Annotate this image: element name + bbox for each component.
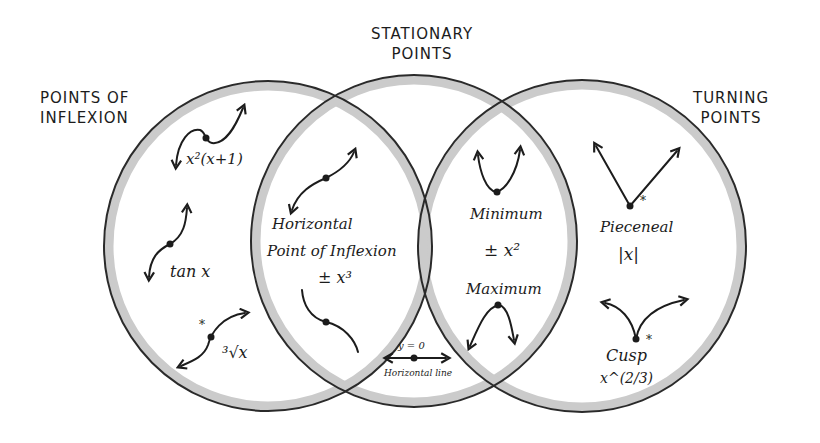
v-shape-sketch-icon [596, 146, 677, 206]
cusp-marker: * [646, 333, 652, 347]
inflection-point-dot [323, 175, 330, 182]
cube-root-marker: * [199, 318, 205, 332]
cusp-point-dot [633, 336, 640, 343]
increasing-cubic-sketch-icon [292, 152, 354, 210]
quadratic-formula: ± x² [484, 240, 520, 260]
tan-label: tan x [170, 262, 210, 281]
turning-set-title: TURNING POINTS [676, 88, 786, 128]
turning-circle-rim [423, 85, 741, 407]
inflection-point-dot [167, 241, 174, 248]
cusp-label: Cusp [606, 346, 647, 365]
inflexion-title-line1: POINTS OF [40, 88, 129, 108]
inflection-point-dot [203, 135, 210, 142]
horizontal-line-caption: Horizontal line [384, 368, 452, 378]
cusp-formula: x^(2/3) [600, 370, 653, 386]
parabola-down-sketch-icon [470, 305, 514, 346]
parabola-up-sketch-icon [478, 150, 520, 192]
inflexion-set-title: POINTS OF INFLEXION [40, 88, 129, 128]
inflection-point-dot [208, 334, 215, 341]
turning-title-line2: POINTS [676, 108, 786, 128]
stationary-title-line2: POINTS [352, 44, 492, 64]
minimum-label: Minimum [470, 205, 543, 223]
cusp-sketch-icon [605, 300, 684, 339]
decreasing-cubic-sketch-icon [302, 290, 358, 352]
abs-formula: |x| [618, 244, 639, 264]
v-shape-marker: * [640, 194, 646, 208]
maximum-label: Maximum [466, 280, 542, 298]
turning-title-line1: TURNING [676, 88, 786, 108]
maximum-point-dot [495, 302, 502, 309]
cubic-label: x²(x+1) [186, 150, 243, 168]
horizontal-poi-line2: Point of Inflexion [267, 242, 397, 260]
inflection-point-dot [323, 319, 330, 326]
horizontal-poi-line1: Horizontal [272, 215, 352, 233]
corner-point-dot [627, 203, 634, 210]
stationary-set-title: STATIONARY POINTS [352, 24, 492, 64]
stationary-title-line1: STATIONARY [352, 24, 492, 44]
horizontal-line-equation: y = 0 [398, 340, 425, 351]
horizontal-poi-formula: ± x³ [318, 268, 352, 287]
cube-root-label: ³√x [222, 343, 248, 362]
pieceneal-label: Pieceneal [600, 218, 673, 236]
minimum-point-dot [494, 189, 501, 196]
stationary-circle-rim [256, 80, 572, 402]
stationary-point-dot [411, 355, 418, 362]
inflexion-title-line2: INFLEXION [40, 108, 129, 128]
